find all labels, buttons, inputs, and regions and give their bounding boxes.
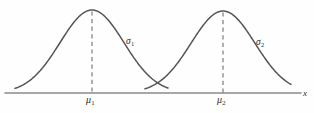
sigma-1-symbol: σ xyxy=(126,36,131,46)
plot-area xyxy=(0,0,314,113)
mu-1-subscript: 1 xyxy=(91,99,95,106)
x-axis-label: x xyxy=(303,89,307,98)
sigma-2-symbol: σ xyxy=(256,37,261,47)
mu-2-label: μ2 xyxy=(217,95,226,106)
mu-2-subscript: 2 xyxy=(222,99,226,106)
normal-curve-2-path xyxy=(145,11,291,89)
sigma-2-label: σ2 xyxy=(256,38,264,48)
mu-1-label: μ1 xyxy=(86,95,95,106)
sigma-2-subscript: 2 xyxy=(261,41,265,48)
normal-curves-figure: σ1 σ2 μ1 μ2 x xyxy=(0,0,314,113)
sigma-1-subscript: 1 xyxy=(131,40,135,47)
sigma-1-label: σ1 xyxy=(126,37,134,47)
